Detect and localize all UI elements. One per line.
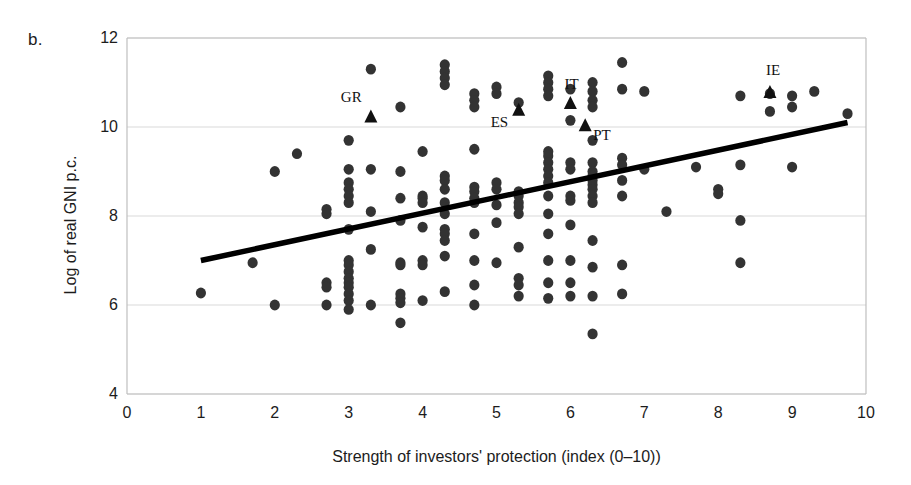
scatter-point — [587, 197, 597, 208]
scatter-point — [587, 262, 597, 273]
scatter-point — [735, 215, 745, 226]
scatter-point — [543, 277, 553, 288]
scatter-point — [543, 208, 553, 219]
scatter-point — [713, 188, 723, 199]
scatter-point — [787, 162, 797, 173]
scatter-point — [440, 251, 450, 262]
scatter-point — [565, 255, 575, 266]
scatter-point — [270, 166, 280, 177]
scatter-point — [543, 191, 553, 202]
scatter-point — [395, 193, 405, 204]
scatter-point — [587, 102, 597, 113]
scatter-point — [617, 84, 627, 95]
country-label-pt: PT — [593, 128, 611, 143]
scatter-point — [469, 300, 479, 311]
scatter-point — [514, 280, 524, 291]
scatter-point — [565, 164, 575, 175]
scatter-point — [366, 164, 376, 175]
scatter-point — [565, 195, 575, 206]
scatter-point — [514, 208, 524, 219]
scatter-point — [514, 242, 524, 253]
trend-line-segment — [201, 123, 848, 261]
scatter-point — [440, 79, 450, 90]
scatter-point — [469, 144, 479, 155]
scatter-point — [469, 228, 479, 239]
scatter-point — [735, 159, 745, 170]
country-marker-pt — [579, 118, 592, 131]
country-label-ie: IE — [766, 63, 780, 78]
scatter-point — [617, 260, 627, 271]
scatter-point — [418, 222, 428, 233]
scatter-point — [395, 102, 405, 113]
scatter-point — [617, 175, 627, 186]
scatter-point — [248, 257, 258, 268]
scatter-point — [418, 197, 428, 208]
scatter-point — [787, 90, 797, 101]
scatter-point — [765, 106, 775, 117]
scatter-point — [196, 288, 206, 299]
country-marker-it — [564, 96, 577, 109]
scatter-point — [491, 217, 501, 228]
scatter-point — [787, 102, 797, 113]
scatter-point — [617, 288, 627, 299]
scatter-point — [321, 282, 331, 293]
scatter-point — [565, 220, 575, 231]
scatter-point — [395, 260, 405, 271]
scatter-point — [543, 255, 553, 266]
scatter-point — [617, 57, 627, 68]
scatter-point — [587, 291, 597, 302]
scatter-point — [321, 208, 331, 219]
scatter-point — [469, 255, 479, 266]
scatter-point — [691, 162, 701, 173]
scatter-point — [395, 166, 405, 177]
scatter-point — [418, 260, 428, 271]
scatter-point — [469, 102, 479, 113]
country-marker-gr — [364, 109, 377, 122]
country-label-gr: GR — [341, 90, 362, 105]
scatter-point — [491, 199, 501, 210]
scatter-point — [321, 300, 331, 311]
scatter-point — [366, 64, 376, 75]
scatter-point — [587, 329, 597, 340]
scatter-point — [617, 191, 627, 202]
scatter-point — [514, 291, 524, 302]
scatter-point — [366, 206, 376, 217]
scatter-point — [469, 280, 479, 291]
scatter-point — [491, 88, 501, 99]
scatter-point — [395, 297, 405, 308]
scatter-point — [418, 146, 428, 157]
scatter-point — [661, 206, 671, 217]
scatter-point — [565, 291, 575, 302]
scatter-point — [639, 86, 649, 97]
scatter-point-group — [196, 57, 853, 339]
scatter-point — [543, 293, 553, 304]
scatter-point — [366, 300, 376, 311]
scatter-point — [842, 108, 852, 119]
scatter-point — [440, 235, 450, 246]
scatter-point — [418, 295, 428, 306]
scatter-point — [735, 257, 745, 268]
scatter-point — [440, 286, 450, 297]
scatter-point — [543, 90, 553, 101]
country-label-es: ES — [491, 115, 509, 130]
scatter-point — [344, 164, 354, 175]
chart-figure: b. Log of real GNI p.c. Strength of inve… — [0, 0, 911, 485]
scatter-point — [440, 184, 450, 195]
scatter-point — [735, 90, 745, 101]
country-label-it: IT — [564, 77, 578, 92]
scatter-point — [491, 184, 501, 195]
scatter-point — [344, 135, 354, 146]
scatter-point — [270, 300, 280, 311]
scatter-point — [395, 317, 405, 328]
scatter-point — [587, 235, 597, 246]
trend-line — [201, 123, 848, 261]
scatter-point — [565, 115, 575, 126]
scatter-point — [491, 257, 501, 268]
scatter-point — [543, 228, 553, 239]
scatter-point — [565, 277, 575, 288]
scatter-point — [344, 304, 354, 315]
scatter-point — [366, 244, 376, 255]
scatter-point — [809, 86, 819, 97]
scatter-point — [292, 148, 302, 159]
scatter-point — [344, 197, 354, 208]
